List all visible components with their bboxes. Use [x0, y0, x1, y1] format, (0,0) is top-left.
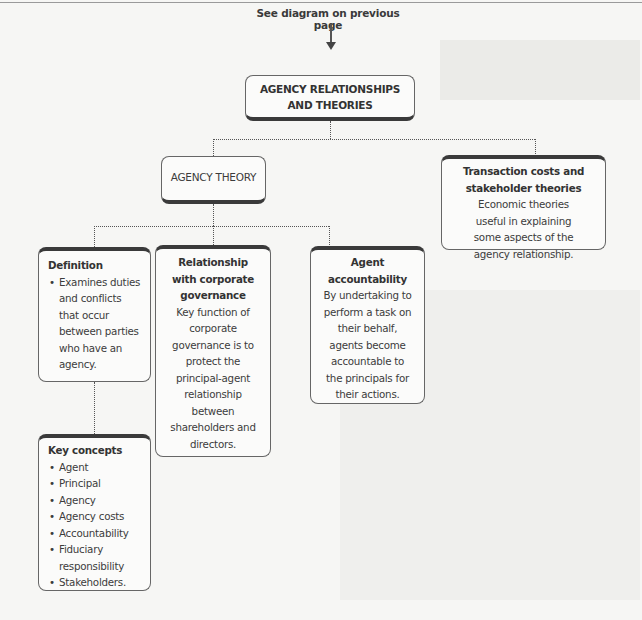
- accountability-title-line: accountability: [311, 271, 424, 288]
- connector: [329, 226, 330, 247]
- accountability-body-line: their behalf,: [311, 320, 424, 337]
- key-concept-item: Accountability: [48, 525, 146, 542]
- accountability-body-line: their actions.: [311, 386, 424, 403]
- accountability-title-line: Agent: [311, 254, 424, 271]
- accountability-body-line: perform a task on: [311, 304, 424, 321]
- accountability-body-line: accountable to: [311, 353, 424, 370]
- governance-body-line: principal-agent: [156, 370, 270, 387]
- key-concept-item: Agency costs: [48, 508, 146, 525]
- root-node: AGENCY RELATIONSHIPS AND THEORIES: [245, 75, 415, 121]
- transaction-body-line: useful in explaining: [442, 213, 605, 230]
- connector: [213, 204, 214, 226]
- connector: [213, 139, 214, 156]
- connector: [94, 382, 95, 434]
- key-concept-item: Agent: [48, 459, 146, 476]
- transaction-body-line: some aspects of the: [442, 229, 605, 246]
- governance-body-line: shareholders and: [156, 419, 270, 436]
- key-concepts-title: Key concepts: [48, 442, 146, 459]
- key-concept-item: Stakeholders.: [48, 574, 146, 591]
- governance-title-line: governance: [156, 287, 270, 304]
- definition-list: Examines duties and conflicts that occur…: [48, 274, 144, 373]
- arrow-shaft: [330, 24, 332, 44]
- corporate-governance-node: Relationship with corporate governance K…: [155, 245, 271, 457]
- root-line-2: AND THEORIES: [246, 97, 414, 113]
- accountability-body-line: agents become: [311, 337, 424, 354]
- governance-body-line: corporate: [156, 320, 270, 337]
- key-concept-item: Principal: [48, 475, 146, 492]
- governance-title-line: with corporate: [156, 271, 270, 288]
- transaction-body-line: Economic theories: [442, 196, 605, 213]
- connector: [94, 226, 95, 247]
- see-previous-caption: See diagram on previous page: [253, 7, 403, 31]
- connector: [535, 139, 536, 156]
- accountability-body-line: By undertaking to: [311, 287, 424, 304]
- bleed-through: [440, 40, 640, 100]
- definition-bullet: Examines duties and conflicts that occur…: [48, 274, 144, 373]
- transaction-title-2: stakeholder theories: [442, 180, 605, 197]
- governance-title-line: Relationship: [156, 254, 270, 271]
- governance-body-line: between: [156, 403, 270, 420]
- governance-body-line: directors.: [156, 436, 270, 453]
- connector: [330, 121, 331, 139]
- transaction-title-1: Transaction costs and: [442, 163, 605, 180]
- key-concept-item: Fiduciary responsibility: [48, 541, 146, 574]
- governance-body-line: protect the: [156, 353, 270, 370]
- key-concepts-node: Key concepts Agent Principal Agency Agen…: [38, 434, 151, 591]
- transaction-body-line: agency relationship.: [442, 246, 605, 263]
- transaction-costs-node: Transaction costs and stakeholder theori…: [441, 155, 606, 250]
- agency-theory-label: AGENCY THEORY: [171, 171, 257, 183]
- key-concepts-list: Agent Principal Agency Agency costs Acco…: [48, 459, 146, 591]
- key-concept-item: Agency: [48, 492, 146, 509]
- agent-accountability-node: Agent accountability By undertaking to p…: [310, 246, 425, 404]
- definition-node: Definition Examines duties and conflicts…: [38, 247, 151, 382]
- connector: [213, 139, 535, 140]
- accountability-body-line: the principals for: [311, 370, 424, 387]
- arrow-down-icon: [326, 42, 336, 50]
- agency-theory-node: AGENCY THEORY: [161, 156, 266, 204]
- definition-title: Definition: [48, 257, 144, 274]
- root-line-1: AGENCY RELATIONSHIPS: [246, 81, 414, 97]
- connector: [94, 226, 329, 227]
- connector: [213, 226, 214, 245]
- governance-body-line: Key function of: [156, 304, 270, 321]
- page-top-rule: [0, 2, 642, 3]
- governance-body-line: relationship: [156, 386, 270, 403]
- governance-body-line: governance is to: [156, 337, 270, 354]
